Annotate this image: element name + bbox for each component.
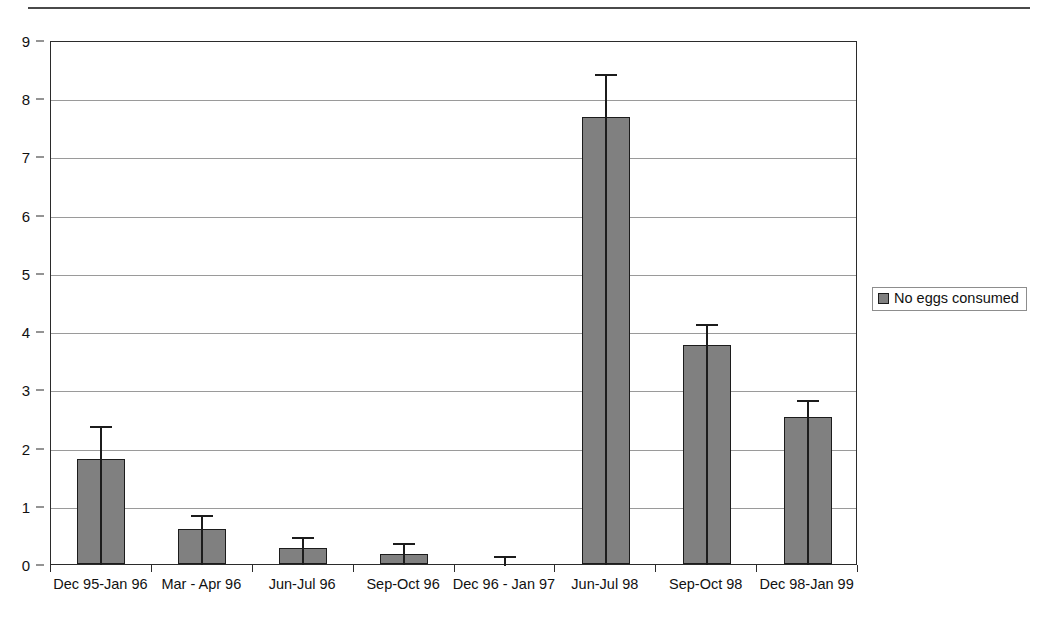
y-tick-mark <box>36 565 44 566</box>
x-tick-mark <box>554 565 555 572</box>
y-tick-label: 1 <box>22 499 30 514</box>
y-tick-mark <box>36 41 44 42</box>
y-tick-mark <box>36 448 44 449</box>
error-bar-cap <box>90 426 112 428</box>
x-tick-mark <box>857 565 858 572</box>
y-tick-mark <box>36 506 44 507</box>
error-bar-stem <box>100 426 102 565</box>
bar-chart-figure: 0123456789 Dec 95-Jan 96Mar - Apr 96Jun-… <box>0 0 1043 638</box>
error-bar-stem <box>201 515 203 565</box>
x-tick-mark <box>252 565 253 572</box>
y-tick-mark <box>36 157 44 158</box>
x-tick-label: Dec 98-Jan 99 <box>747 576 867 593</box>
y-tick-label: 3 <box>22 383 30 398</box>
error-bar-cap <box>494 556 516 558</box>
error-bar-cap <box>797 400 819 402</box>
error-bar-stem <box>706 324 708 565</box>
x-tick-mark <box>655 565 656 572</box>
x-tick-mark <box>756 565 757 572</box>
error-bar-stem <box>807 400 809 565</box>
chart-legend: No eggs consumed <box>872 287 1027 311</box>
bar-group <box>354 42 455 564</box>
error-bar-cap <box>595 74 617 76</box>
x-axis: Dec 95-Jan 96Mar - Apr 96Jun-Jul 96Sep-O… <box>50 576 857 622</box>
y-tick-label: 7 <box>22 150 30 165</box>
bar-group <box>455 42 556 564</box>
bar-group <box>656 42 757 564</box>
plot-area <box>50 41 857 565</box>
y-tick-label: 4 <box>22 325 30 340</box>
error-bar-stem <box>403 543 405 565</box>
y-tick-label: 5 <box>22 266 30 281</box>
bar-group <box>757 42 858 564</box>
bar-group <box>253 42 354 564</box>
legend-swatch-icon <box>878 293 889 304</box>
x-tick-mark <box>50 565 51 572</box>
legend-label: No eggs consumed <box>894 291 1019 306</box>
x-tick-mark <box>151 565 152 572</box>
y-tick-mark <box>36 390 44 391</box>
y-tick-label: 0 <box>22 558 30 573</box>
error-bar-cap <box>191 515 213 517</box>
y-tick-label: 2 <box>22 441 30 456</box>
y-tick-label: 9 <box>22 34 30 49</box>
y-tick-mark <box>36 273 44 274</box>
error-bar-cap <box>393 543 415 545</box>
x-tick-mark <box>454 565 455 572</box>
error-bar-stem <box>605 74 607 565</box>
bar-group <box>555 42 656 564</box>
bar-group <box>51 42 152 564</box>
x-tick-mark <box>353 565 354 572</box>
y-axis: 0123456789 <box>0 41 44 565</box>
y-tick-label: 8 <box>22 92 30 107</box>
y-tick-mark <box>36 99 44 100</box>
bar-group <box>152 42 253 564</box>
y-tick-mark <box>36 215 44 216</box>
bars-layer <box>51 42 856 564</box>
x-axis-ticks <box>50 565 857 573</box>
y-tick-label: 6 <box>22 208 30 223</box>
y-tick-mark <box>36 332 44 333</box>
error-bar-cap <box>696 324 718 326</box>
error-bar-cap <box>292 537 314 539</box>
error-bar-stem <box>302 537 304 565</box>
